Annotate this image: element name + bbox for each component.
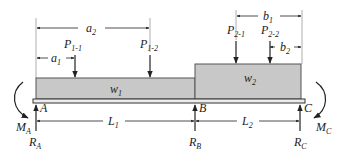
point-load-p1-2: P1-2 xyxy=(139,37,158,77)
support-b: B RB xyxy=(188,101,207,151)
point-load-p2-2: P2-2 xyxy=(260,23,279,63)
moment-arrow-c xyxy=(314,82,326,118)
svg-text:RB: RB xyxy=(188,135,201,151)
point-load-p2-1: P2-1 xyxy=(226,23,245,63)
svg-text:P1-2: P1-2 xyxy=(139,37,158,53)
beam-diagram: a2 a1 b1 b2 P1-1 P1-2 P2-1 P2-2 w1 w2 xyxy=(0,0,345,159)
svg-text:A: A xyxy=(39,101,48,115)
dimension-l1: L1 xyxy=(37,114,194,130)
svg-text:B: B xyxy=(199,101,207,115)
svg-text:L1: L1 xyxy=(107,114,119,130)
svg-text:P2-2: P2-2 xyxy=(260,23,279,39)
dimension-l2: L2 xyxy=(196,114,299,130)
svg-text:a2: a2 xyxy=(86,21,96,37)
svg-text:MC: MC xyxy=(315,120,332,136)
svg-text:C: C xyxy=(304,101,313,115)
svg-text:L2: L2 xyxy=(241,114,253,130)
svg-text:P2-1: P2-1 xyxy=(226,23,245,39)
dimension-a2: a2 xyxy=(37,21,149,37)
svg-text:MA: MA xyxy=(15,120,31,136)
dimension-b2: b2 xyxy=(270,40,301,56)
moment-arrow-a xyxy=(14,82,28,118)
dimension-a1: a1 xyxy=(37,51,74,67)
svg-text:P1-1: P1-1 xyxy=(63,37,82,53)
beam xyxy=(33,99,305,103)
svg-text:b2: b2 xyxy=(280,40,290,56)
svg-text:a1: a1 xyxy=(51,51,61,67)
svg-text:RC: RC xyxy=(293,135,307,151)
dimension-b1: b1 xyxy=(237,9,301,25)
point-load-p1-1: P1-1 xyxy=(63,37,82,77)
svg-text:RA: RA xyxy=(28,135,41,151)
